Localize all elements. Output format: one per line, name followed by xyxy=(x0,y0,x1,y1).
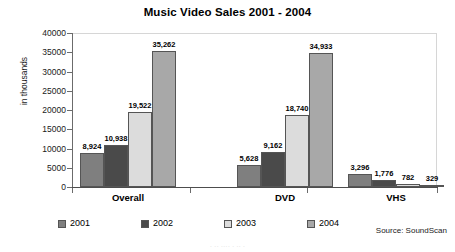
bar-slot: 329 xyxy=(420,33,444,187)
bar-value-label: 18,740 xyxy=(286,105,309,113)
x-axis-line xyxy=(72,187,438,188)
x-axis-category-label: DVD xyxy=(237,192,333,203)
y-axis-tick-mark xyxy=(67,52,72,53)
source-note: Source: SoundScan xyxy=(376,226,447,235)
legend-swatch-icon xyxy=(58,220,66,228)
y-axis-tick-label: 10000 xyxy=(0,145,66,154)
y-axis-tick-mark xyxy=(67,168,72,169)
bar-vhs-2002[interactable] xyxy=(372,180,396,187)
chart-legend: 2001200220032004 xyxy=(58,219,388,233)
bar-slot: 35,262 xyxy=(152,33,176,187)
x-axis-separator-tick xyxy=(190,188,191,193)
bar-dvd-2001[interactable] xyxy=(237,165,261,187)
bar-value-label: 329 xyxy=(426,175,439,183)
bar-value-label: 19,522 xyxy=(129,102,152,110)
bar-slot: 9,162 xyxy=(261,33,285,187)
bar-vhs-2003[interactable] xyxy=(396,184,420,187)
bar-vhs-2004[interactable] xyxy=(420,185,444,187)
bar-slot: 782 xyxy=(396,33,420,187)
legend-label: 2004 xyxy=(319,219,339,228)
bar-dvd-2004[interactable] xyxy=(309,53,333,187)
y-axis-tick-mark xyxy=(67,72,72,73)
footer-ghost-text: · ·· ···· · ·· · xyxy=(0,243,455,252)
bar-slot: 5,628 xyxy=(237,33,261,187)
y-axis-tick-label: 20000 xyxy=(0,106,66,115)
bar-set: 8,92410,93819,52235,262 xyxy=(80,33,176,187)
bar-slot: 1,776 xyxy=(372,33,396,187)
bar-group: 8,92410,93819,52235,262 xyxy=(80,33,176,187)
bar-value-label: 1,776 xyxy=(375,170,394,178)
legend-item-2004[interactable]: 2004 xyxy=(307,219,339,228)
bar-group: 3,2961,776782329 xyxy=(348,33,444,187)
bar-value-label: 9,162 xyxy=(264,142,283,150)
x-axis-separator-tick xyxy=(437,188,438,193)
legend-label: 2001 xyxy=(70,219,90,228)
legend-item-2001[interactable]: 2001 xyxy=(58,219,90,228)
x-axis-category-label: VHS xyxy=(348,192,444,203)
y-axis-tick-mark xyxy=(67,33,72,34)
bar-value-label: 35,262 xyxy=(153,41,176,49)
legend-item-2003[interactable]: 2003 xyxy=(224,219,256,228)
bar-vhs-2001[interactable] xyxy=(348,174,372,187)
bar-group: 5,6289,16218,74034,933 xyxy=(237,33,333,187)
bar-overall-2004[interactable] xyxy=(152,51,176,187)
legend-swatch-icon xyxy=(141,220,149,228)
y-axis-tick-mark xyxy=(67,110,72,111)
y-axis-line xyxy=(72,33,73,188)
x-axis-separator-tick xyxy=(72,188,73,193)
legend-label: 2003 xyxy=(236,219,256,228)
bar-value-label: 3,296 xyxy=(351,164,370,172)
bar-slot: 34,933 xyxy=(309,33,333,187)
y-axis-tick-label: 35000 xyxy=(0,48,66,57)
bar-value-label: 8,924 xyxy=(83,143,102,151)
y-axis-tick-label: 25000 xyxy=(0,87,66,96)
bar-value-label: 782 xyxy=(402,174,415,182)
bar-slot: 18,740 xyxy=(285,33,309,187)
bar-dvd-2003[interactable] xyxy=(285,115,309,187)
chart-container: Music Video Sales 2001 - 2004 in thousan… xyxy=(0,0,455,252)
bar-slot: 8,924 xyxy=(80,33,104,187)
y-axis-tick-label: 15000 xyxy=(0,125,66,134)
y-axis-tick-label: 0 xyxy=(0,183,66,192)
bar-overall-2003[interactable] xyxy=(128,112,152,187)
y-axis-tick-mark xyxy=(67,91,72,92)
bar-slot: 3,296 xyxy=(348,33,372,187)
y-axis-tick-label: 40000 xyxy=(0,29,66,38)
y-axis-tick-label: 30000 xyxy=(0,68,66,77)
x-axis-separator-tick xyxy=(307,188,308,193)
legend-swatch-icon xyxy=(224,220,232,228)
y-axis-tick-mark xyxy=(67,149,72,150)
legend-item-2002[interactable]: 2002 xyxy=(141,219,173,228)
bar-overall-2001[interactable] xyxy=(80,153,104,187)
bar-dvd-2002[interactable] xyxy=(261,152,285,187)
bar-set: 5,6289,16218,74034,933 xyxy=(237,33,333,187)
x-axis-category-label: Overall xyxy=(80,192,176,203)
legend-label: 2002 xyxy=(153,219,173,228)
bar-value-label: 10,938 xyxy=(105,135,128,143)
bar-value-label: 34,933 xyxy=(310,43,333,51)
bar-slot: 19,522 xyxy=(128,33,152,187)
bar-overall-2002[interactable] xyxy=(104,145,128,187)
bar-value-label: 5,628 xyxy=(240,155,259,163)
bar-slot: 10,938 xyxy=(104,33,128,187)
y-axis-title: in thousands xyxy=(19,21,29,141)
y-axis-tick-mark xyxy=(67,129,72,130)
chart-title: Music Video Sales 2001 - 2004 xyxy=(0,6,455,18)
y-axis-tick-label: 5000 xyxy=(0,164,66,173)
legend-swatch-icon xyxy=(307,220,315,228)
bar-set: 3,2961,776782329 xyxy=(348,33,444,187)
